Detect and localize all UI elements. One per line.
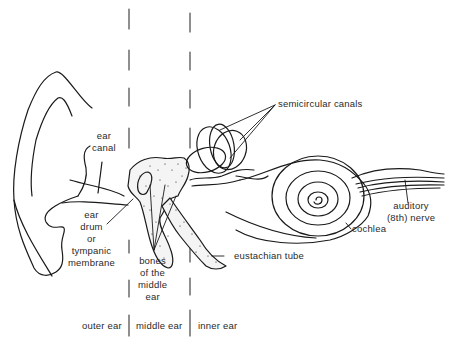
label-line: ear bbox=[92, 130, 116, 142]
label-cochlea: cochlea bbox=[352, 223, 386, 235]
label-line: tympanic bbox=[68, 245, 115, 257]
auditory-nerve-shape bbox=[236, 168, 444, 196]
label-line: or bbox=[68, 233, 115, 245]
label-line: ear bbox=[138, 291, 167, 303]
label-line: of the bbox=[138, 267, 167, 279]
label-line: middle bbox=[138, 279, 167, 291]
label-semicircular-canals: semicircular canals bbox=[278, 98, 363, 110]
label-ear-canal: ear canal bbox=[92, 130, 116, 154]
label-auditory-nerve: auditory (8th) nerve bbox=[387, 200, 435, 224]
label-line: auditory bbox=[387, 200, 435, 212]
label-line: bones bbox=[138, 255, 167, 267]
semicircular-canals-shape bbox=[184, 122, 254, 186]
label-bones-of-middle-ear: bones of the middle ear bbox=[138, 255, 167, 303]
region-label-outer-ear: outer ear bbox=[82, 320, 122, 332]
middle-ear-bones bbox=[128, 157, 226, 269]
label-line: membrane bbox=[68, 257, 115, 269]
region-label-middle-ear: middle ear bbox=[136, 320, 182, 332]
label-ear-drum: ear drum or tympanic membrane bbox=[68, 209, 115, 269]
label-line: ear bbox=[68, 209, 115, 221]
region-label-inner-ear: inner ear bbox=[198, 320, 237, 332]
label-line: (8th) nerve bbox=[387, 212, 435, 224]
ear-anatomy-diagram bbox=[0, 0, 466, 352]
label-line: drum bbox=[68, 221, 115, 233]
label-line: canal bbox=[92, 142, 116, 154]
label-eustachian-tube: eustachian tube bbox=[234, 250, 304, 262]
